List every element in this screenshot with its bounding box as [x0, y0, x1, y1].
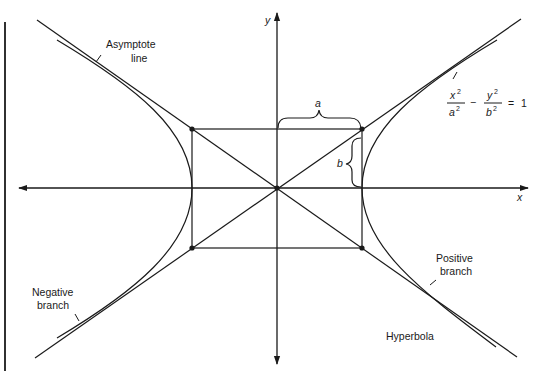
label-a: a: [315, 97, 321, 109]
equation-pointer: [453, 72, 457, 79]
svg-text:2: 2: [493, 105, 497, 112]
svg-text:1: 1: [521, 97, 527, 109]
svg-text:2: 2: [456, 105, 460, 112]
asymptote-label-line1: Asymptote: [106, 38, 156, 50]
brace-a: [278, 110, 361, 128]
positive-branch-curve: [362, 40, 497, 347]
positive-branch-pointer: [430, 280, 436, 285]
svg-text:2: 2: [457, 88, 461, 95]
negative-branch-label-line2: branch: [37, 299, 69, 311]
center-dot: [274, 185, 279, 190]
corner-dot-bottom-left: [189, 245, 194, 250]
brace-b: [346, 138, 361, 187]
corner-dot-top-left: [189, 126, 194, 131]
svg-text:x: x: [449, 89, 456, 101]
negative-branch-curve: [57, 40, 192, 338]
asymptote-pointer: [96, 55, 101, 62]
corner-dot-top-right: [359, 126, 364, 131]
negative-branch-label-line1: Negative: [32, 286, 74, 298]
svg-text:2: 2: [494, 88, 498, 95]
corner-dot-bottom-right: [359, 245, 364, 250]
positive-branch-label-line2: branch: [440, 265, 472, 277]
hyperbola-diagram: y x a b Asymptote line x 2 a 2 − y 2 b 2…: [0, 0, 546, 371]
x-axis-label: x: [516, 191, 523, 203]
svg-text:−: −: [470, 96, 476, 108]
hyperbola-equation: x 2 a 2 − y 2 b 2 = 1: [447, 72, 527, 118]
svg-text:a: a: [449, 106, 455, 118]
y-axis-label: y: [264, 14, 271, 26]
label-b: b: [337, 157, 343, 169]
svg-text:y: y: [486, 89, 493, 101]
asymptote-label-line2: line: [131, 52, 148, 64]
svg-text:b: b: [486, 106, 492, 118]
positive-branch-label-line1: Positive: [436, 252, 473, 264]
diagram-caption: Hyperbola: [386, 330, 434, 342]
svg-text:=: =: [508, 97, 514, 109]
negative-branch-pointer: [75, 314, 79, 321]
